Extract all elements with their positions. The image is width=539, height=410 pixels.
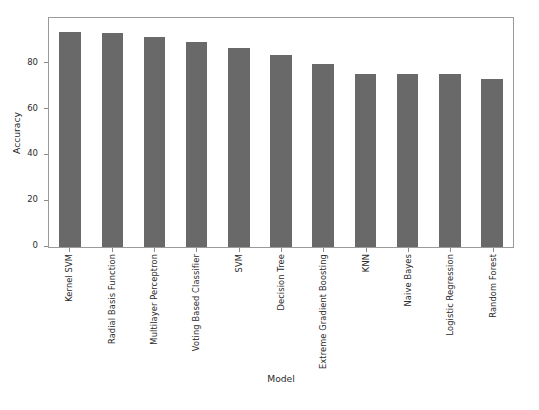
x-tick: Decision Tree bbox=[260, 248, 302, 358]
y-tick-label: 60 bbox=[27, 103, 38, 113]
x-tick-label: Radial Basis Function bbox=[107, 254, 117, 344]
bar-chart-figure: Accuracy 020406080 Kernel SVMRadial Basi… bbox=[0, 0, 539, 410]
x-tick-label: Naive Bayes bbox=[403, 254, 413, 306]
x-tick-mark bbox=[112, 248, 113, 252]
x-tick-label: Extreme Gradient Boosting bbox=[318, 254, 328, 369]
x-tick-mark bbox=[323, 248, 324, 252]
bar-slot bbox=[133, 18, 175, 247]
plot-area bbox=[48, 17, 514, 248]
x-tick-mark bbox=[493, 248, 494, 252]
x-tick: KNN bbox=[345, 248, 387, 358]
bar-slot bbox=[344, 18, 386, 247]
x-tick: Radial Basis Function bbox=[90, 248, 132, 358]
bar bbox=[228, 48, 250, 247]
bar-slot bbox=[387, 18, 429, 247]
bar-slot bbox=[429, 18, 471, 247]
x-tick: Logistic Regression bbox=[429, 248, 471, 358]
x-tick-label: Random Forest bbox=[488, 254, 498, 318]
bar bbox=[439, 74, 461, 247]
bar bbox=[481, 79, 503, 247]
bar-slot bbox=[471, 18, 513, 247]
x-tick-label: SVM bbox=[234, 254, 244, 272]
bar bbox=[270, 55, 292, 247]
x-tick-mark bbox=[366, 248, 367, 252]
y-tick-label: 20 bbox=[27, 194, 38, 204]
bar-slot bbox=[176, 18, 218, 247]
x-tick-mark bbox=[69, 248, 70, 252]
x-tick: Voting Based Classifier bbox=[175, 248, 217, 358]
x-tick-label: Multilayer Perceptron bbox=[149, 254, 159, 345]
x-tick: Kernel SVM bbox=[48, 248, 90, 358]
x-tick: Naive Bayes bbox=[387, 248, 429, 358]
x-tick-mark bbox=[281, 248, 282, 252]
y-axis-title: Accuracy bbox=[11, 112, 22, 154]
x-tick-mark bbox=[196, 248, 197, 252]
y-axis-title-container: Accuracy bbox=[9, 17, 23, 248]
x-tick-label: Kernel SVM bbox=[64, 254, 74, 302]
x-axis-ticks: Kernel SVMRadial Basis FunctionMultilaye… bbox=[48, 248, 514, 358]
bar bbox=[59, 32, 81, 247]
bar bbox=[312, 64, 334, 247]
x-tick-label: Voting Based Classifier bbox=[191, 254, 201, 351]
bar-slot bbox=[91, 18, 133, 247]
x-tick-mark bbox=[450, 248, 451, 252]
bar bbox=[186, 42, 208, 247]
x-axis-title: Model bbox=[48, 373, 514, 384]
bar bbox=[144, 37, 166, 247]
bar-slot bbox=[49, 18, 91, 247]
x-tick-mark bbox=[239, 248, 240, 252]
bar-series bbox=[49, 18, 513, 247]
x-tick: Extreme Gradient Boosting bbox=[302, 248, 344, 358]
x-tick: SVM bbox=[217, 248, 259, 358]
bar bbox=[102, 33, 124, 247]
x-tick-mark bbox=[154, 248, 155, 252]
y-tick-label: 0 bbox=[33, 240, 38, 250]
bar bbox=[355, 74, 377, 247]
x-tick-label: KNN bbox=[361, 254, 371, 272]
x-tick: Multilayer Perceptron bbox=[133, 248, 175, 358]
bar-slot bbox=[260, 18, 302, 247]
x-tick: Random Forest bbox=[472, 248, 514, 358]
y-tick-label: 40 bbox=[27, 148, 38, 158]
y-tick-label: 80 bbox=[27, 57, 38, 67]
x-tick-label: Decision Tree bbox=[276, 254, 286, 311]
bar-slot bbox=[218, 18, 260, 247]
bar bbox=[397, 74, 419, 247]
bar-slot bbox=[302, 18, 344, 247]
x-tick-mark bbox=[408, 248, 409, 252]
x-tick-label: Logistic Regression bbox=[445, 254, 455, 336]
